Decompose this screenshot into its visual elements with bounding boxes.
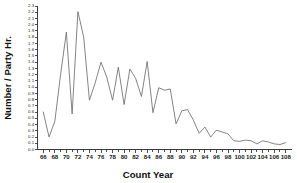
y-tick-label: 0.2 <box>28 134 35 139</box>
x-tick-label: 96 <box>213 153 220 160</box>
x-tick-label: 100 <box>234 153 245 160</box>
y-tick-label: 2.1 <box>28 16 35 21</box>
x-tick-label: 102 <box>246 153 257 160</box>
x-tick-label: 106 <box>269 153 280 160</box>
x-tick-label: 80 <box>121 153 128 160</box>
x-axis-tick-labels: 6668707274767880828486889092949698100102… <box>40 153 292 160</box>
y-tick-label: 1.7 <box>28 41 35 46</box>
y-tick-label: 1.1 <box>28 78 35 83</box>
data-series-line <box>43 12 285 145</box>
line-chart: 0.00.10.20.30.40.50.60.70.80.91.01.11.21… <box>0 0 297 183</box>
y-tick-label: 2.3 <box>28 3 35 8</box>
x-tick-label: 72 <box>75 153 82 160</box>
x-tick-label: 98 <box>225 153 232 160</box>
y-axis-title: Number / Party Hr. <box>2 36 13 120</box>
x-tick-label: 104 <box>258 153 269 160</box>
y-tick-label: 0.3 <box>28 128 35 133</box>
x-tick-label: 68 <box>51 153 58 160</box>
y-tick-label: 1.4 <box>28 59 35 64</box>
caption-strip <box>0 169 297 183</box>
y-tick-label: 1.8 <box>28 34 35 39</box>
x-tick-label: 76 <box>98 153 105 160</box>
y-tick-label: 1.6 <box>28 47 35 52</box>
x-tick-label: 94 <box>202 153 209 160</box>
x-tick-label: 70 <box>63 153 70 160</box>
x-tick-label: 78 <box>109 153 116 160</box>
y-tick-label: 0.7 <box>28 103 35 108</box>
y-tick-label: 2.0 <box>28 22 35 27</box>
y-tick-label: 0.4 <box>28 122 35 127</box>
y-tick-label: 0.6 <box>28 109 35 114</box>
y-tick-label: 0.0 <box>28 147 35 152</box>
x-tick-label: 82 <box>132 153 139 160</box>
x-tick-label: 108 <box>281 153 292 160</box>
x-tick-label: 66 <box>40 153 47 160</box>
y-tick-label: 1.0 <box>28 84 35 89</box>
figure-container: 0.00.10.20.30.40.50.60.70.80.91.01.11.21… <box>0 0 297 183</box>
y-tick-label: 1.3 <box>28 66 35 71</box>
y-tick-label: 0.8 <box>28 97 35 102</box>
y-tick-label: 1.5 <box>28 53 35 58</box>
x-tick-label: 90 <box>178 153 185 160</box>
y-tick-label: 2.2 <box>28 9 35 14</box>
x-tick-label: 88 <box>167 153 174 160</box>
y-tick-label: 0.9 <box>28 91 35 96</box>
x-tick-label: 74 <box>86 153 93 160</box>
x-tick-label: 92 <box>190 153 197 160</box>
y-tick-label: 1.2 <box>28 72 35 77</box>
y-tick-label: 1.9 <box>28 28 35 33</box>
y-tick-label: 0.5 <box>28 115 35 120</box>
y-tick-label: 0.1 <box>28 140 35 145</box>
y-axis-tick-labels: 0.00.10.20.30.40.50.60.70.80.91.01.11.21… <box>28 3 35 152</box>
x-tick-label: 86 <box>155 153 162 160</box>
x-tick-label: 84 <box>144 153 151 160</box>
